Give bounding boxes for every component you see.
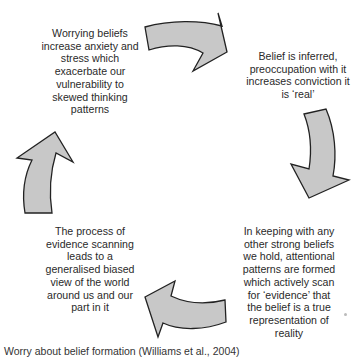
curved-arrow-left-icon <box>145 281 226 337</box>
stray-dot <box>344 313 347 316</box>
curved-arrow-down-icon <box>291 109 349 198</box>
curved-arrow-right-icon <box>145 13 227 71</box>
figure-caption: Worry about belief formation (Williams e… <box>4 345 240 357</box>
curved-arrow-up-icon <box>17 132 73 213</box>
